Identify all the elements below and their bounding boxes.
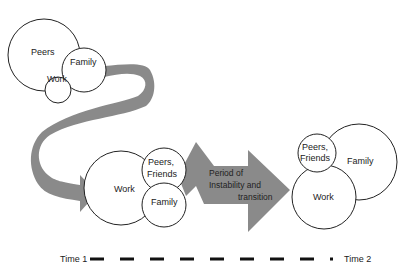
stage3-family-label: Family [347, 156, 374, 166]
life-domains-diagram: Peers Family Work Work Peers, Friends Fa… [0, 0, 414, 276]
stage1-work-label: Work [47, 74, 67, 84]
stage2-family-label: Family [151, 197, 178, 207]
stage3-work-label: Work [313, 192, 334, 202]
stage3-cluster: Family Work Peers, Friends [292, 124, 397, 229]
stage2-cluster: Work Peers, Friends Family [84, 148, 186, 227]
stage1-peers-label: Peers [31, 47, 55, 57]
stage1-family-label: Family [70, 57, 97, 67]
transition-line1: Period of [209, 168, 244, 178]
timeline-start-label: Time 1 [60, 254, 87, 264]
timeline-end-label: Time 2 [344, 254, 371, 264]
stage3-friends-label: Friends [300, 153, 331, 163]
timeline: Time 1 Time 2 [60, 254, 371, 264]
stage2-friends-label: Friends [147, 169, 178, 179]
stage1-cluster: Peers Family Work [8, 19, 106, 103]
transition-line3: transition [238, 192, 273, 202]
transition-line2: Instability and [209, 180, 261, 190]
stage2-peers-label: Peers, [148, 157, 174, 167]
stage2-work-label: Work [114, 184, 135, 194]
stage3-peers-label: Peers, [302, 142, 328, 152]
